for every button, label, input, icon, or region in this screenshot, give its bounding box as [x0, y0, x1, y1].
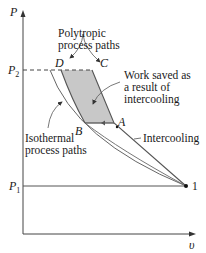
x-axis-arrow-icon	[189, 232, 196, 237]
work-saved-region	[61, 70, 114, 123]
point-1-label: 1	[192, 180, 198, 192]
p1-label: P1	[8, 179, 20, 195]
y-axis-label: P	[9, 5, 18, 19]
point-B-label: B	[75, 124, 83, 138]
work-saved-label-line1: Work saved as	[124, 69, 191, 81]
x-axis-label: υ	[189, 238, 195, 252]
polytropic-label-line2: process paths	[58, 39, 120, 52]
point-C-label: C	[100, 56, 109, 70]
isothermal-label-line1: Isothermal	[25, 132, 74, 144]
diagram-svg: P υ P2 P1 D C B A 1 Polytropic process p…	[0, 0, 206, 253]
point-A-label: A	[117, 115, 126, 129]
work-saved-label-line3: intercooling	[124, 93, 180, 106]
intercooling-leader	[134, 138, 141, 139]
isothermal-leader	[48, 102, 62, 128]
y-axis-arrow-icon	[21, 10, 26, 17]
pv-diagram: P υ P2 P1 D C B A 1 Polytropic process p…	[0, 0, 206, 253]
point-D-label: D	[54, 56, 64, 70]
intercooling-label: Intercooling	[143, 132, 199, 145]
state-point-1	[184, 184, 188, 188]
isothermal-label-line2: process paths	[25, 144, 87, 157]
work-saved-label-line2: a result of	[124, 81, 170, 93]
p2-label: P2	[7, 63, 19, 79]
